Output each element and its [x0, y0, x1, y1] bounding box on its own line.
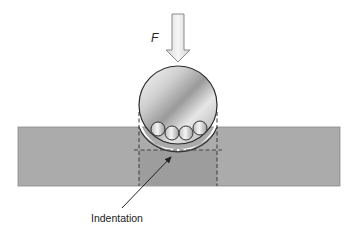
indentation-zone [139, 150, 217, 186]
indentation-diagram: F Indentation [0, 0, 354, 235]
force-arrow-icon [166, 14, 190, 62]
particle-1 [151, 122, 165, 136]
particle-3 [179, 126, 193, 140]
particle-4 [193, 121, 207, 135]
particle-2 [165, 126, 179, 140]
indentation-label: Indentation [91, 212, 143, 224]
force-label: F [151, 31, 159, 45]
